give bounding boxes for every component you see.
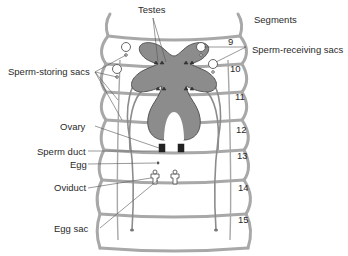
label-egg: Egg	[70, 159, 87, 170]
segment-number-9: 9	[228, 36, 233, 47]
label-testes: Testes	[138, 4, 165, 15]
earthworm-reproductive-diagram	[0, 0, 348, 256]
label-oviduct: Oviduct	[54, 182, 86, 193]
segment-number-15: 15	[238, 214, 249, 225]
label-ovary: Ovary	[60, 121, 85, 132]
segment-number-11: 11	[235, 91, 245, 102]
label-sperm-receiving-sacs: Sperm-receiving sacs	[252, 44, 343, 55]
segment-number-14: 14	[238, 182, 249, 193]
segment-number-10: 10	[230, 63, 241, 74]
label-segments: Segments	[254, 14, 297, 25]
egg-dot	[157, 162, 160, 165]
label-sperm-storing-sacs: Sperm-storing sacs	[8, 66, 90, 77]
label-egg-sac: Egg sac	[54, 223, 88, 234]
sperm-funnels	[159, 144, 184, 152]
label-sperm-duct: Sperm duct	[37, 146, 86, 157]
segment-number-12: 12	[236, 124, 247, 135]
segment-number-13: 13	[237, 150, 248, 161]
